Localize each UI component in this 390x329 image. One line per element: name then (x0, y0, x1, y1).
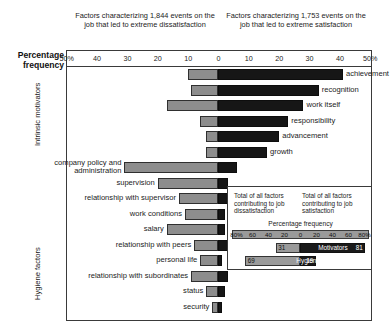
bar-row (194, 240, 227, 251)
bar-row (185, 209, 224, 220)
bar-row (191, 85, 318, 96)
bar-label: supervision (0, 179, 155, 188)
bar-label: work itself (306, 101, 340, 110)
group-label-motivators: Intrinsic motivators (33, 83, 42, 146)
bar-row (200, 255, 221, 266)
bar-label: recognition (322, 86, 359, 95)
bar-segment-satisfaction (218, 69, 342, 80)
bar-row (206, 147, 267, 158)
bar-row (167, 224, 225, 235)
bar-row (179, 193, 228, 204)
legend-box: Total of all factors contributing to job… (227, 186, 372, 270)
bar-segment-dissatisfaction (158, 178, 219, 189)
axis-tick-0: 50% (60, 54, 74, 63)
legend-head-satisfaction: Total of all factors contributing to job… (302, 192, 368, 215)
legend-tick-2: 40 (265, 231, 272, 238)
bar-segment-dissatisfaction (167, 224, 219, 235)
bar-row (158, 178, 228, 189)
bar-label: relationship with supervisor (0, 194, 176, 203)
bar-segment-dissatisfaction (194, 240, 218, 251)
legend-tick-1: 60 (249, 231, 256, 238)
legend-series-name: Motivators (318, 244, 347, 251)
bar-row (188, 69, 343, 80)
legend-row: 6919Hygiene (245, 256, 315, 266)
legend-tick-5: 20 (313, 231, 320, 238)
legend-tick-7: 60 (345, 231, 352, 238)
bar-label: advancement (282, 132, 328, 141)
bar-segment-dissatisfaction (185, 209, 218, 220)
axis-tick-1: 40 (93, 54, 101, 63)
bar-segment-satisfaction (218, 271, 227, 282)
bar-segment-dissatisfaction (200, 255, 218, 266)
bar-row (191, 271, 227, 282)
bar-label: status (0, 287, 203, 296)
legend-row: 3181Motivators (276, 243, 366, 253)
bar-segment-satisfaction (218, 302, 221, 313)
axis-tick-9: 40 (336, 54, 344, 63)
caption-dissatisfaction: Factors characterizing 1,844 events on t… (72, 11, 218, 29)
bar-label: growth (270, 148, 293, 157)
bar-segment-dissatisfaction (200, 116, 218, 127)
axis-tick-5: 0 (217, 54, 221, 63)
bar-segment-satisfaction (218, 286, 224, 297)
axis-tick-8: 30 (306, 54, 314, 63)
axis-tick-6: 10 (245, 54, 253, 63)
bar-segment-dissatisfaction (124, 162, 218, 173)
legend-value-right: 81 (356, 244, 363, 251)
bar-label: salary (0, 225, 164, 234)
legend-tick-6: 40 (329, 231, 336, 238)
bar-segment-dissatisfaction (191, 271, 218, 282)
bar-segment-satisfaction (218, 255, 221, 266)
axis-tick-3: 20 (154, 54, 162, 63)
axis-rule (66, 66, 372, 67)
bar-row (200, 116, 288, 127)
bar-label: achievement (346, 70, 389, 79)
legend-scale-title: Percentage frequency (228, 220, 373, 227)
bar-segment-satisfaction (218, 162, 236, 173)
bar-segment-satisfaction (218, 209, 224, 220)
bar-segment-satisfaction (218, 131, 279, 142)
axis-tick-2: 30 (123, 54, 131, 63)
chart-root: Factors characterizing 1,844 events on t… (0, 0, 390, 329)
legend-tick-0: 80% (230, 231, 242, 238)
legend-series-name: Hygiene (296, 257, 319, 264)
axis-tick-4: 10 (184, 54, 192, 63)
bar-segment-dissatisfaction (188, 69, 218, 80)
bar-row (124, 162, 236, 173)
caption-satisfaction: Factors characterizing 1,753 events on t… (222, 11, 370, 29)
bar-row (206, 286, 224, 297)
bar-segment-dissatisfaction (206, 147, 218, 158)
legend-value-left: 69 (248, 257, 255, 264)
bar-row (167, 100, 304, 111)
bar-label: responsibility (291, 117, 335, 126)
bar-segment-satisfaction (218, 224, 224, 235)
bar-row (206, 131, 279, 142)
axis-tick-10: 50% (363, 54, 377, 63)
bar-segment-satisfaction (218, 85, 318, 96)
legend-head-dissatisfaction: Total of all factors contributing to job… (234, 192, 298, 215)
axis-title: Percentage frequency (2, 50, 64, 70)
axis-tick-7: 20 (275, 54, 283, 63)
bar-segment-satisfaction (218, 100, 303, 111)
bar-segment-satisfaction (218, 147, 267, 158)
bar-segment-dissatisfaction (179, 193, 218, 204)
bar-segment-dissatisfaction (167, 100, 219, 111)
bar-label: work conditions (0, 210, 182, 219)
legend-tick-8: 80% (358, 231, 370, 238)
bar-label: relationship with peers (0, 241, 191, 250)
bar-segment-dissatisfaction (191, 85, 218, 96)
bar-segment-dissatisfaction (206, 131, 218, 142)
bar-segment-satisfaction (218, 116, 288, 127)
bar-row (212, 302, 221, 313)
legend-value-left: 31 (278, 244, 285, 251)
legend-tick-3: 20 (281, 231, 288, 238)
bar-label: security (0, 303, 209, 312)
bar-label: company policy and administration (25, 159, 121, 176)
bar-segment-dissatisfaction (206, 286, 218, 297)
bar-label: relationship with subordinates (0, 272, 188, 281)
legend-tick-4: 0 (299, 231, 302, 238)
bar-label: personal life (0, 256, 197, 265)
